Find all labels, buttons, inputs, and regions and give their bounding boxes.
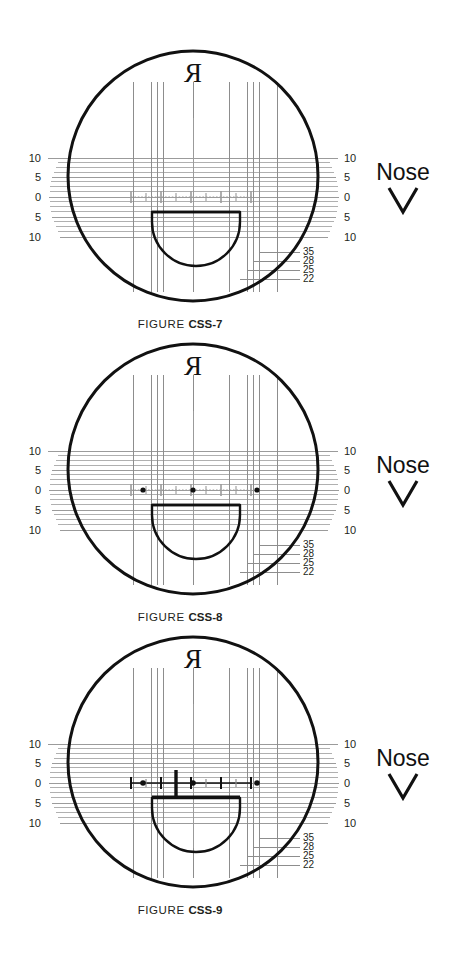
- caption-code: CSS-9: [188, 904, 222, 916]
- svg-text:10: 10: [344, 231, 356, 243]
- svg-text:10: 10: [344, 738, 356, 750]
- nose-label: Nose: [358, 453, 448, 477]
- svg-text:10: 10: [29, 445, 41, 457]
- diagram-css-9: 10 5 0 5 10 10 5 0 5 10 35 28 25 22 R: [0, 586, 360, 896]
- segment-outline: [152, 798, 240, 852]
- right-axis-labels: 10 5 0 5 10: [344, 445, 356, 536]
- svg-text:22: 22: [303, 273, 315, 284]
- figure-caption-css-9: FIGURE CSS-9: [0, 904, 360, 916]
- svg-text:5: 5: [344, 464, 350, 476]
- svg-text:22: 22: [303, 566, 315, 577]
- svg-text:10: 10: [29, 152, 41, 164]
- svg-text:0: 0: [344, 191, 350, 203]
- segment-outline: [152, 505, 240, 559]
- right-axis-labels: 10 5 0 5 10: [344, 738, 356, 829]
- svg-text:5: 5: [344, 797, 350, 809]
- svg-text:5: 5: [35, 211, 41, 223]
- figure-panel-css-9: 10 5 0 5 10 10 5 0 5 10 35 28 25 22 R: [0, 586, 451, 896]
- svg-text:5: 5: [344, 757, 350, 769]
- chevron-down-arrow-icon: [383, 185, 423, 215]
- right-axis-labels: 10 5 0 5 10: [344, 152, 356, 243]
- svg-text:0: 0: [344, 484, 350, 496]
- left-axis-labels: 10 5 0 5 10: [29, 152, 41, 243]
- svg-text:5: 5: [35, 464, 41, 476]
- left-axis-labels: 10 5 0 5 10: [29, 445, 41, 536]
- nose-indicator-2: Nose: [358, 453, 448, 508]
- svg-text:5: 5: [344, 504, 350, 516]
- corner-scale-labels: 35 28 25 22: [303, 246, 315, 284]
- svg-text:5: 5: [344, 211, 350, 223]
- svg-text:10: 10: [344, 817, 356, 829]
- svg-text:10: 10: [344, 524, 356, 536]
- svg-text:10: 10: [344, 152, 356, 164]
- corner-scale-labels: 35 28 25 22: [303, 832, 315, 870]
- nose-indicator-3: Nose: [358, 746, 448, 801]
- nose-label: Nose: [358, 746, 448, 770]
- diagram-css-8: 10 5 0 5 10 10 5 0 5 10 35 28 25 22 R: [0, 293, 360, 603]
- svg-text:0: 0: [35, 484, 41, 496]
- caption-word: FIGURE: [138, 904, 185, 916]
- svg-text:0: 0: [344, 777, 350, 789]
- chevron-down-arrow-icon: [383, 771, 423, 801]
- svg-text:10: 10: [29, 817, 41, 829]
- figure-panel-css-8: 10 5 0 5 10 10 5 0 5 10 35 28 25 22 R: [0, 293, 451, 603]
- figure-sheet: 10 5 0 5 10 10 5 0 5 10 35 28 25 22: [0, 0, 451, 972]
- svg-text:10: 10: [29, 738, 41, 750]
- svg-text:0: 0: [35, 191, 41, 203]
- diagram-css-7: 10 5 0 5 10 10 5 0 5 10 35 28 25 22: [0, 0, 360, 310]
- measure-ruler: [131, 770, 260, 798]
- nose-label: Nose: [358, 160, 448, 184]
- svg-text:5: 5: [35, 171, 41, 183]
- svg-text:5: 5: [344, 171, 350, 183]
- svg-text:10: 10: [29, 231, 41, 243]
- chevron-down-arrow-icon: [383, 478, 423, 508]
- svg-text:5: 5: [35, 504, 41, 516]
- svg-text:5: 5: [35, 757, 41, 769]
- svg-text:10: 10: [29, 524, 41, 536]
- nose-indicator-1: Nose: [358, 160, 448, 215]
- figure-panel-css-7: 10 5 0 5 10 10 5 0 5 10 35 28 25 22: [0, 0, 451, 310]
- segment-outline: [152, 212, 240, 266]
- orientation-mark-icon: R: [184, 644, 202, 674]
- corner-scale-labels: 35 28 25 22: [303, 539, 315, 577]
- orientation-mark-icon: R: [184, 351, 202, 381]
- svg-text:10: 10: [344, 445, 356, 457]
- svg-text:5: 5: [35, 797, 41, 809]
- left-axis-labels: 10 5 0 5 10: [29, 738, 41, 829]
- svg-text:22: 22: [303, 859, 315, 870]
- measure-ruler: [131, 191, 252, 203]
- orientation-mark-icon: R: [184, 58, 202, 88]
- svg-text:0: 0: [35, 777, 41, 789]
